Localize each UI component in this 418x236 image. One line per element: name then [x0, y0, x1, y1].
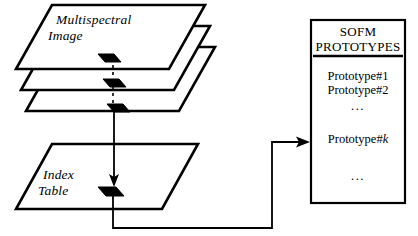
prototype-ellipsis-bottom: ...	[310, 170, 406, 183]
prototype-item-2-index: 2	[382, 83, 388, 97]
panel-title-line1: SOFM	[310, 25, 406, 39]
index-table-label-line1: Index	[43, 168, 74, 182]
prototype-item-1-text: Prototype#	[327, 69, 382, 83]
index-table-label-line2: Table	[38, 184, 69, 198]
multispectral-label-line2: Image	[48, 29, 83, 43]
prototype-item-k-index: k	[383, 132, 389, 146]
prototype-item-2: Prototype#2	[310, 84, 406, 97]
prototype-item-k-text: Prototype#	[328, 132, 383, 146]
prototype-ellipsis-middle: ...	[310, 100, 406, 113]
panel-title-line2: PROTOTYPES	[310, 40, 406, 54]
multispectral-label-line1: Multispectral	[56, 13, 131, 27]
prototype-item-1-index: 1	[382, 69, 388, 83]
prototype-item-2-text: Prototype#	[327, 83, 382, 97]
diagram-canvas: Multispectral Image Index Table SOFM PRO…	[0, 0, 418, 236]
prototype-item-k: Prototype#k	[310, 133, 406, 146]
prototype-item-1: Prototype#1	[310, 70, 406, 83]
